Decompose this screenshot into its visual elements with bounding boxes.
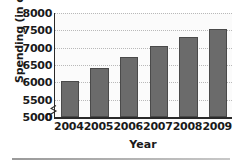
y-tick-5000: 5000 — [16, 112, 52, 123]
x-tick-2009: 2009 — [202, 120, 232, 133]
axis-break-icon — [50, 104, 59, 115]
footer-divider — [12, 158, 230, 160]
y-tick-7500: 7500 — [16, 25, 52, 36]
y-tick-6500: 6500 — [16, 60, 52, 71]
gridline — [55, 48, 232, 49]
bar-2007 — [150, 46, 168, 117]
y-tick-6000: 6000 — [16, 77, 52, 88]
x-tick-2008: 2008 — [173, 120, 203, 133]
y-tick-8000: 8000 — [16, 8, 52, 19]
x-tick-2004: 2004 — [54, 120, 84, 133]
x-tick-2007: 2007 — [143, 120, 173, 133]
bar-2008 — [179, 37, 197, 117]
x-tick-2006: 2006 — [113, 120, 143, 133]
gridline — [55, 82, 232, 83]
gridline — [55, 65, 232, 66]
x-axis-line — [54, 117, 232, 119]
y-tick-5500: 5500 — [16, 95, 52, 106]
bar-chart-figure: Spending (in dollars) 050005500600065007… — [0, 0, 234, 167]
y-axis-tick-labels: 05000550060006500700075008000 — [16, 0, 52, 167]
x-axis-title: Year — [54, 138, 232, 151]
x-axis-tick-labels: 200420052006200720082009 — [54, 120, 232, 136]
bar-2009 — [209, 29, 227, 117]
gridline — [55, 13, 232, 14]
gridline — [55, 100, 232, 101]
plot-area — [54, 13, 232, 117]
bar-2004 — [61, 81, 79, 117]
bar-2005 — [90, 68, 108, 117]
y-tick-7000: 7000 — [16, 43, 52, 54]
bar-2006 — [120, 57, 138, 117]
gridline — [55, 30, 232, 31]
x-tick-2005: 2005 — [84, 120, 114, 133]
